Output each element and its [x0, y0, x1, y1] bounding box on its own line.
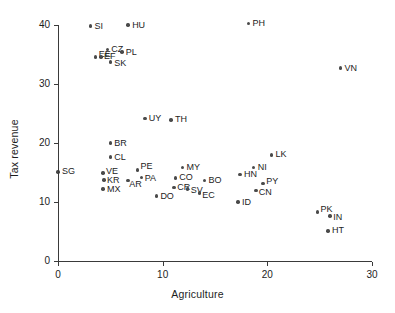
data-point-marker: [270, 153, 273, 156]
data-point-marker: [261, 182, 264, 185]
y-tick-mark: [54, 84, 58, 85]
data-point-label: UY: [149, 114, 162, 123]
data-point-label: PL: [126, 48, 137, 57]
data-point-marker: [99, 55, 102, 58]
x-tick-mark: [372, 262, 373, 266]
data-point-marker: [328, 214, 331, 217]
data-point-label: EC: [202, 191, 215, 200]
data-point-label: PK: [321, 205, 333, 214]
data-point-label: MX: [107, 185, 121, 194]
data-point-label: PH: [252, 19, 265, 28]
data-point-marker: [326, 229, 329, 232]
data-point-label: IN: [333, 213, 342, 222]
data-point-marker: [109, 155, 112, 158]
data-point-marker: [236, 200, 239, 203]
data-point-marker: [238, 173, 241, 176]
data-point-marker: [155, 194, 158, 197]
data-point-marker: [126, 23, 129, 26]
data-point-label: NI: [258, 163, 267, 172]
data-point-label: PE: [141, 162, 153, 171]
data-point-label: MY: [187, 163, 201, 172]
data-point-label: PA: [145, 174, 156, 183]
x-tick-mark: [163, 262, 164, 266]
data-point-label: SG: [62, 167, 75, 176]
y-tick-mark: [54, 143, 58, 144]
y-tick-label: 10: [28, 197, 50, 207]
data-point-marker: [172, 186, 175, 189]
data-point-label: CL: [114, 153, 126, 162]
data-point-marker: [101, 171, 104, 174]
data-point-label: LK: [276, 150, 287, 159]
data-point-label: VN: [345, 64, 358, 73]
data-point-label: DO: [160, 192, 174, 201]
x-tick-label: 10: [157, 270, 168, 280]
data-point-marker: [89, 24, 92, 27]
data-point-label: BO: [209, 176, 222, 185]
data-point-marker: [203, 179, 206, 182]
x-tick-mark: [267, 262, 268, 266]
x-tick-label: 0: [55, 270, 61, 280]
scatter-plot-figure: SGSIHUCZPLEEEFSKPHVNUYTHBRCLLKMYNIPEVEHN…: [0, 0, 395, 313]
data-point-marker: [181, 166, 184, 169]
y-axis-title: Tax revenue: [8, 89, 20, 209]
data-points-layer: SGSIHUCZPLEEEFSKPHVNUYTHBRCLLKMYNIPEVEHN…: [0, 0, 395, 313]
data-point-label: AR: [129, 180, 142, 189]
y-tick-label: 40: [28, 20, 50, 30]
data-point-marker: [339, 66, 342, 69]
data-point-label: PY: [266, 177, 278, 186]
y-tick-label: 0: [28, 256, 50, 266]
data-point-marker: [198, 191, 201, 194]
data-point-marker: [120, 50, 123, 53]
data-point-marker: [94, 55, 97, 58]
data-point-marker: [143, 117, 146, 120]
data-point-marker: [136, 168, 139, 171]
data-point-marker: [102, 178, 105, 181]
y-axis-line: [58, 25, 59, 261]
data-point-marker: [254, 189, 257, 192]
x-axis-title: Agriculture: [0, 288, 395, 300]
x-tick-mark: [58, 262, 59, 266]
y-tick-mark: [54, 25, 58, 26]
data-point-label: HN: [244, 170, 257, 179]
data-point-label: HT: [332, 226, 344, 235]
x-tick-label: 30: [366, 270, 377, 280]
data-point-marker: [316, 210, 319, 213]
data-point-marker: [169, 118, 172, 121]
data-point-label: HU: [132, 21, 145, 30]
data-point-label: SI: [94, 22, 103, 31]
y-tick-mark: [54, 202, 58, 203]
data-point-marker: [109, 141, 112, 144]
data-point-marker: [101, 187, 104, 190]
data-point-label: SK: [114, 59, 126, 68]
data-point-label: CN: [259, 188, 272, 197]
x-axis-line: [58, 261, 372, 262]
data-point-marker: [247, 22, 250, 25]
data-point-label: ID: [242, 198, 251, 207]
data-point-label: CO: [179, 173, 193, 182]
y-tick-mark: [54, 261, 58, 262]
y-tick-label: 30: [28, 79, 50, 89]
x-tick-label: 20: [262, 270, 273, 280]
data-point-marker: [109, 60, 112, 63]
data-point-label: TH: [175, 115, 187, 124]
data-point-marker: [174, 176, 177, 179]
y-tick-label: 20: [28, 138, 50, 148]
data-point-label: BR: [114, 139, 127, 148]
